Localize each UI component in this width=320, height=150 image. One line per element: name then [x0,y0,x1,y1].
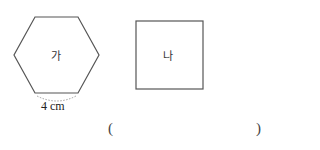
answer-close-paren: ) [256,120,261,137]
square-label: 나 [163,47,173,63]
answer-blank[interactable] [118,120,254,138]
hexagon-label: 가 [51,47,61,63]
answer-open-paren: ( [108,120,113,137]
hexagon-side-length: 4 cm [41,99,65,114]
